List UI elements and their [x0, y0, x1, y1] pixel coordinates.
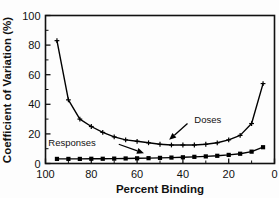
marker-square	[181, 155, 185, 159]
marker-plus	[100, 130, 105, 135]
marker-plus	[226, 137, 231, 142]
marker-plus	[203, 142, 208, 147]
coefficient-of-variation-chart: 100806040200 020406080100 DosesResponses…	[0, 0, 279, 198]
marker-square	[146, 156, 150, 160]
marker-square	[135, 156, 139, 160]
marker-square	[101, 157, 105, 161]
marker-plus	[181, 143, 186, 148]
y-tick-label: 20	[28, 128, 40, 140]
x-axis-title: Percent Binding	[116, 183, 204, 195]
y-tick-label: 60	[28, 69, 40, 81]
y-tick-label: 80	[28, 39, 40, 51]
chart-figure: 100806040200 020406080100 DosesResponses…	[0, 0, 279, 198]
marker-plus	[123, 137, 128, 142]
marker-plus	[55, 38, 60, 43]
x-tick-label: 80	[85, 168, 97, 180]
marker-square	[261, 145, 265, 149]
marker-plus	[215, 140, 220, 145]
marker-square	[66, 157, 70, 161]
marker-square	[215, 154, 219, 158]
annotation-arrow-shaft	[119, 144, 138, 151]
x-tick-label: 20	[223, 168, 235, 180]
annotation-doses: Doses	[169, 114, 221, 140]
annotation-arrow-shaft	[174, 124, 187, 136]
marker-plus	[192, 143, 197, 148]
y-tick-label: 40	[28, 98, 40, 110]
x-tick-label: 40	[177, 168, 189, 180]
series-doses	[55, 38, 266, 147]
marker-square	[250, 150, 254, 154]
x-tick-label: 60	[131, 168, 143, 180]
x-axis-tick-labels: 100806040200	[36, 168, 277, 180]
y-axis-tick-labels: 020406080100	[22, 10, 40, 170]
marker-plus	[135, 139, 140, 144]
marker-square	[204, 154, 208, 158]
marker-square	[169, 155, 173, 159]
annotation-layer: DosesResponses	[48, 114, 221, 154]
y-axis-title: Coefficient of Variation (%)	[1, 17, 13, 163]
marker-square	[227, 153, 231, 157]
marker-square	[192, 155, 196, 159]
series-line-doses	[57, 41, 263, 145]
annotation-arrow-head	[136, 148, 144, 154]
marker-square	[124, 156, 128, 160]
annotation-label-doses: Doses	[194, 114, 221, 125]
marker-square	[158, 156, 162, 160]
marker-plus	[146, 140, 151, 145]
marker-plus	[112, 134, 117, 139]
y-tick-label: 0	[34, 158, 40, 170]
marker-plus	[158, 142, 163, 147]
x-tick-label: 0	[271, 168, 277, 180]
marker-square	[238, 152, 242, 156]
marker-square	[55, 157, 59, 161]
marker-plus	[169, 143, 174, 148]
marker-square	[89, 157, 93, 161]
marker-plus	[261, 81, 266, 86]
annotation-label-responses: Responses	[48, 137, 96, 148]
marker-square	[78, 157, 82, 161]
marker-square	[112, 157, 116, 161]
y-tick-label: 100	[22, 10, 40, 22]
